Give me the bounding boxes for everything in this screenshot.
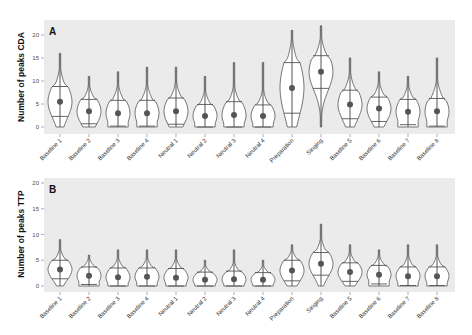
panel-a-y-axis-title: Number of peaks CDA [16,32,26,122]
mean-point [115,274,121,280]
violin-figure: A Number of peaks CDA 05101520 Baseline … [0,0,472,335]
y-tick-label: 15 [32,55,39,61]
x-tick-label: Baseline 1 [39,295,64,320]
x-tick-label: Singing [305,137,323,155]
mean-point [202,113,208,119]
x-tick-label: Baseline 6 [358,295,383,320]
y-tick-label: 10 [32,78,39,84]
y-tick-label: 10 [32,232,39,238]
x-tick-label: Baseline 5 [329,137,354,162]
panel-a: A Number of peaks CDA 05101520 Baseline … [16,20,455,164]
y-tick-label: 15 [32,206,39,212]
x-tick-label: Neutral 2 [186,137,208,159]
panel-b: B Number of peaks TTP 05101520 Baseline … [16,178,455,322]
x-tick-label: Neutral 3 [215,295,237,317]
mean-point [144,274,150,280]
mean-point [86,273,92,279]
x-tick-label: Baseline 3 [97,137,122,162]
x-tick-label: Preparation [269,295,295,321]
x-tick-label: Baseline 2 [68,295,93,320]
x-tick-label: Neutral 1 [157,137,179,159]
x-tick-label: Baseline 8 [416,295,441,320]
mean-point [260,113,266,119]
x-tick-label: Preparation [269,137,295,163]
x-tick-label: Neutral 1 [157,295,179,317]
mean-point [376,106,382,112]
x-tick-label: Baseline 4 [126,137,151,162]
mean-point [347,269,353,275]
mean-point [405,273,411,279]
panel-a-y-ticks: 05101520 [32,32,44,130]
mean-point [231,276,237,282]
panel-a-letter: A [49,26,56,37]
mean-point [202,277,208,283]
x-tick-label: Baseline 1 [39,137,64,162]
mean-point [231,112,237,118]
x-tick-label: Baseline 7 [387,295,412,320]
x-tick-label: Baseline 4 [126,295,151,320]
panel-b-letter: B [49,184,56,195]
mean-point [57,99,63,105]
x-tick-label: Neutral 2 [186,295,208,317]
mean-point [289,85,295,91]
mean-point [86,108,92,114]
mean-point [347,101,353,107]
panel-a-x-labels: Baseline 1Baseline 2Baseline 3Baseline 4… [39,134,441,164]
mean-point [318,69,324,75]
mean-point [173,275,179,281]
mean-point [376,272,382,278]
x-tick-label: Baseline 5 [329,295,354,320]
x-tick-label: Baseline 2 [68,137,93,162]
y-tick-label: 0 [36,124,40,130]
y-tick-label: 5 [36,101,40,107]
mean-point [57,267,63,273]
x-tick-label: Neutral 4 [244,137,266,159]
panel-b-y-ticks: 05101520 [32,180,44,289]
x-tick-label: Baseline 3 [97,295,122,320]
x-tick-label: Singing [305,295,323,313]
mean-point [289,268,295,274]
violin-chart: A Number of peaks CDA 05101520 Baseline … [0,0,472,335]
panel-a-background [44,20,455,134]
mean-point [434,273,440,279]
mean-point [260,277,266,283]
panel-b-y-axis-title: Number of peaks TTP [16,190,26,278]
x-tick-label: Neutral 3 [215,137,237,159]
y-tick-label: 0 [36,283,40,289]
y-tick-label: 20 [32,32,39,38]
x-tick-label: Baseline 7 [387,137,412,162]
x-tick-label: Baseline 6 [358,137,383,162]
panel-b-x-labels: Baseline 1Baseline 2Baseline 3Baseline 4… [39,292,441,322]
mean-point [405,109,411,115]
mean-point [434,108,440,114]
y-tick-label: 5 [36,257,40,263]
panel-b-background [44,178,455,292]
mean-point [173,108,179,114]
y-tick-label: 20 [32,180,39,186]
x-tick-label: Baseline 8 [416,137,441,162]
mean-point [318,261,324,267]
mean-point [115,110,121,116]
x-tick-label: Neutral 4 [244,295,266,317]
mean-point [144,110,150,116]
